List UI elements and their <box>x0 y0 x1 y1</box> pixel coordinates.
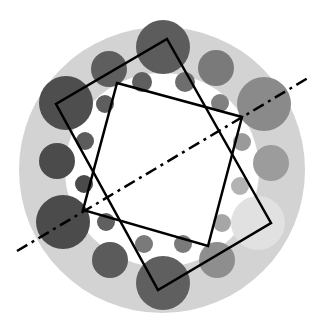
ball-circle <box>198 50 234 86</box>
ball-circle <box>253 145 289 181</box>
rotor-diagram <box>0 0 322 326</box>
ball-circle <box>39 143 75 179</box>
ball-circle <box>36 195 90 249</box>
ball-circle <box>135 235 153 253</box>
ball-circle <box>237 77 291 131</box>
ball-circle <box>92 242 128 278</box>
